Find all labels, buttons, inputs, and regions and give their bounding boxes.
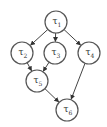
edge-t1-t2 [30,29,47,45]
node-t4: τ4 [78,42,100,64]
edge-t4-t6 [71,63,85,99]
node-t1: τ1 [45,11,67,33]
node-t6: τ6 [56,99,78,121]
node-t2: τ2 [11,42,33,64]
edge-t5-t6 [45,89,59,102]
nodes: τ1τ2τ3τ4τ5τ6 [11,11,100,121]
task-graph: τ1τ2τ3τ4τ5τ6 [0,0,107,127]
edge-t2-t5 [27,63,31,71]
edge-t3-t5 [43,62,49,71]
edge-t1-t4 [64,30,81,46]
node-t5: τ5 [26,70,48,92]
node-t3: τ3 [44,42,66,64]
